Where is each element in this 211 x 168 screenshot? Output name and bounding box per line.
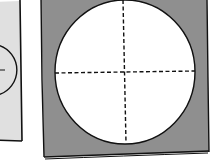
right-panel (41, 0, 209, 159)
diagram-canvas (0, 0, 211, 168)
left-panel (0, 0, 22, 141)
